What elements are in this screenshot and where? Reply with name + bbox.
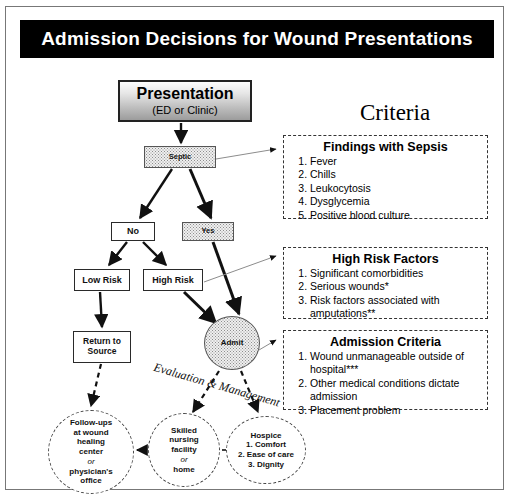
snf-line2: nursing bbox=[169, 435, 198, 445]
criteria-admission: Admission Criteria Wound unmanageable ou… bbox=[283, 330, 488, 410]
no-label: No bbox=[127, 226, 139, 236]
list-item: Serious wounds* bbox=[310, 280, 481, 293]
criteria-high-risk-factors: High Risk Factors Significant comorbidit… bbox=[283, 247, 488, 319]
followup-line2: at wound bbox=[73, 428, 108, 438]
node-septic[interactable]: Septic bbox=[144, 146, 216, 168]
node-admit[interactable]: Admit bbox=[204, 316, 260, 370]
criteria-admission-list: Wound unmanageable outside of hospital**… bbox=[290, 350, 481, 417]
list-item: Positive blood culture bbox=[310, 209, 481, 222]
criteria-high-risk-title: High Risk Factors bbox=[290, 252, 481, 266]
list-item: Other medical conditions dictate admissi… bbox=[310, 377, 481, 404]
list-item: Wound unmanageable outside of hospital**… bbox=[310, 350, 481, 377]
criteria-findings-with-sepsis: Findings with Sepsis Fever Chills Leukoc… bbox=[283, 135, 488, 219]
return-to-source-label: Return to Source bbox=[74, 337, 130, 356]
followup-or: or bbox=[87, 457, 94, 467]
outcome-skilled-nursing[interactable]: Skilled nursing facility or home bbox=[148, 413, 220, 487]
snf-line4: home bbox=[173, 465, 194, 475]
node-low-risk[interactable]: Low Risk bbox=[74, 269, 130, 291]
node-return-to-source[interactable]: Return to Source bbox=[73, 331, 131, 363]
node-high-risk[interactable]: High Risk bbox=[143, 269, 203, 291]
criteria-sepsis-list: Fever Chills Leukocytosis Dysglycemia Po… bbox=[290, 155, 481, 222]
outcome-hospice[interactable]: Hospice 1. Comfort 2. Ease of care 3. Di… bbox=[226, 416, 306, 484]
hospice-item-1: 1. Comfort bbox=[246, 440, 286, 450]
list-item: Risk factors associated with amputations… bbox=[310, 294, 481, 321]
followup-line4: center bbox=[79, 447, 103, 457]
list-item: Placement problem bbox=[310, 404, 481, 417]
criteria-heading: Criteria bbox=[300, 100, 490, 126]
high-risk-label: High Risk bbox=[152, 275, 194, 285]
presentation-line1: Presentation bbox=[137, 85, 234, 103]
hospice-item-2: 2. Ease of care bbox=[238, 450, 294, 460]
admit-label: Admit bbox=[221, 339, 244, 348]
snf-line3: facility bbox=[171, 445, 196, 455]
page-title-text: Admission Decisions for Wound Presentati… bbox=[41, 28, 473, 50]
criteria-admission-title: Admission Criteria bbox=[290, 335, 481, 349]
followup-line6: office bbox=[80, 476, 101, 486]
criteria-sepsis-title: Findings with Sepsis bbox=[290, 140, 481, 154]
node-no[interactable]: No bbox=[111, 222, 155, 241]
followup-line5: physician's bbox=[69, 467, 112, 477]
list-item: Significant comorbidities bbox=[310, 267, 481, 280]
followup-line3: healing bbox=[77, 437, 105, 447]
flowchart-page: Admission Decisions for Wound Presentati… bbox=[0, 0, 514, 495]
followup-line1: Follow-ups bbox=[70, 418, 112, 428]
outcome-followups[interactable]: Follow-ups at wound healing center or ph… bbox=[48, 410, 134, 494]
node-presentation[interactable]: Presentation (ED or Clinic) bbox=[118, 80, 252, 122]
hospice-item-3: 3. Dignity bbox=[248, 460, 284, 470]
page-title: Admission Decisions for Wound Presentati… bbox=[20, 20, 494, 58]
list-item: Fever bbox=[310, 155, 481, 168]
list-item: Dysglycemia bbox=[310, 195, 481, 208]
low-risk-label: Low Risk bbox=[82, 275, 122, 285]
list-item: Leukocytosis bbox=[310, 182, 481, 195]
presentation-line2: (ED or Clinic) bbox=[152, 104, 217, 116]
hospice-title: Hospice bbox=[250, 431, 281, 441]
node-yes[interactable]: Yes bbox=[182, 222, 234, 241]
snf-line1: Skilled bbox=[171, 426, 197, 436]
criteria-high-risk-list: Significant comorbidities Serious wounds… bbox=[290, 267, 481, 321]
septic-label: Septic bbox=[169, 153, 192, 161]
list-item: Chills bbox=[310, 168, 481, 181]
yes-label: Yes bbox=[202, 227, 215, 235]
snf-or: or bbox=[180, 455, 187, 465]
